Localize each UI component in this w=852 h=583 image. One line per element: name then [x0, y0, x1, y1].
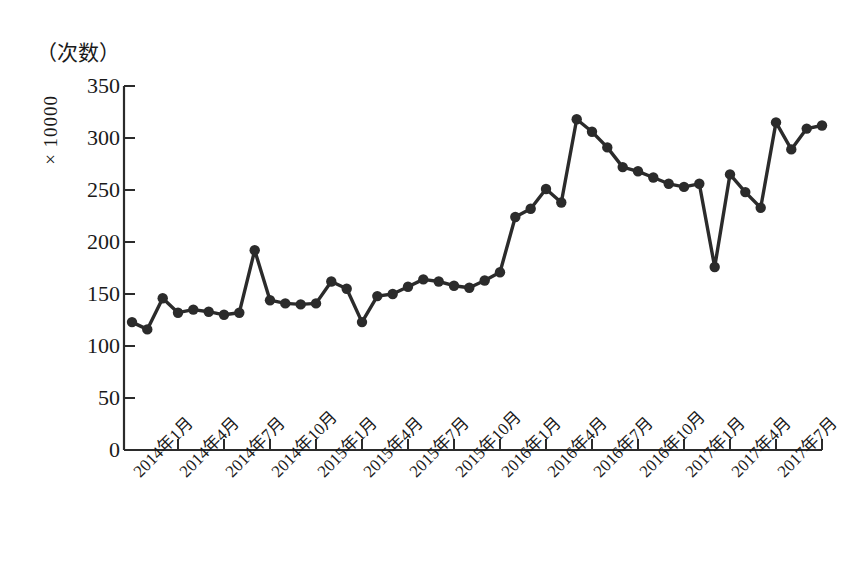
- chart-container: （次数） ×10000 050100150200250300350 2014年1…: [0, 0, 852, 583]
- x-axis-tick-labels: 2014年1月2014年4月2014年7月2014年10月2015年1月2015…: [0, 0, 852, 583]
